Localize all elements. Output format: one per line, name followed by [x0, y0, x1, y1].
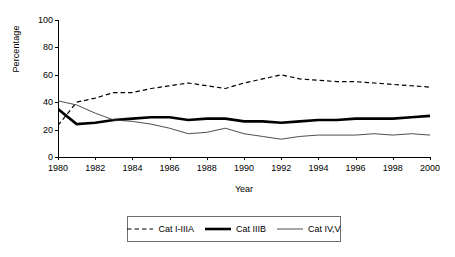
x-tick-label: 1990 [234, 163, 254, 173]
x-tick-label: 1998 [383, 163, 403, 173]
legend-label: Cat IV,V [308, 224, 341, 234]
x-tick-label: 1982 [85, 163, 105, 173]
x-tick-label: 1988 [197, 163, 217, 173]
x-tick-mark [170, 157, 171, 160]
x-tick-label: 1992 [271, 163, 291, 173]
x-tick-mark [393, 157, 394, 160]
line-chart-figure: Percentage 020406080100 1980198219841986… [0, 0, 455, 257]
x-tick-mark [58, 157, 59, 160]
x-tick-mark [281, 157, 282, 160]
x-tick-label: 1980 [48, 163, 68, 173]
legend-item-cat-iiib[interactable]: Cat IIIB [205, 224, 266, 234]
series-line-cat-iiib [58, 109, 430, 124]
chart-legend: Cat I-IIIACat IIIBCat IV,V [127, 216, 341, 242]
y-tick-label: 100 [38, 16, 53, 25]
y-tick-label: 20 [43, 125, 53, 134]
x-tick-mark [244, 157, 245, 160]
y-tick-label: 80 [43, 43, 53, 52]
x-tick-label: 1994 [308, 163, 328, 173]
x-tick-label: 1984 [122, 163, 142, 173]
thin-line-swatch [277, 224, 303, 234]
y-tick-label: 0 [48, 153, 53, 162]
legend-label: Cat I-IIIA [158, 224, 194, 234]
x-tick-mark [95, 157, 96, 160]
legend-item-cat-i-iiia[interactable]: Cat I-IIIA [127, 224, 194, 234]
plot-area: 020406080100 198019821984198619881990199… [58, 20, 430, 157]
data-series-lines [58, 20, 430, 157]
x-tick-mark [430, 157, 431, 160]
x-tick-mark [356, 157, 357, 160]
series-line-cat-iv-v [58, 101, 430, 139]
dashed-line-swatch [127, 224, 153, 234]
x-tick-label: 1996 [346, 163, 366, 173]
x-tick-label: 2000 [420, 163, 440, 173]
x-tick-label: 1986 [160, 163, 180, 173]
legend-label: Cat IIIB [236, 224, 266, 234]
x-tick-mark [132, 157, 133, 160]
x-tick-mark [318, 157, 319, 160]
y-tick-label: 40 [43, 98, 53, 107]
y-tick-label: 60 [43, 70, 53, 79]
legend-item-cat-iv-v[interactable]: Cat IV,V [277, 224, 341, 234]
x-tick-mark [207, 157, 208, 160]
x-axis-title: Year [58, 184, 430, 194]
y-axis-title: Percentage [11, 4, 21, 94]
thick-line-swatch [205, 224, 231, 234]
